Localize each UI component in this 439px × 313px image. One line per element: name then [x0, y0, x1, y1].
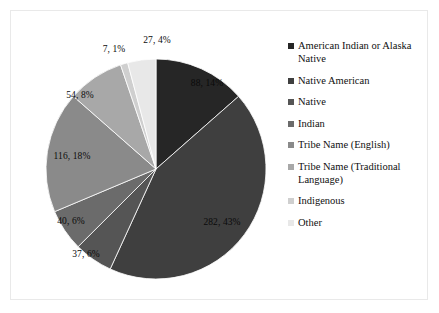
legend-item-label: Indigenous: [298, 194, 345, 207]
legend-item-label: Native American: [298, 74, 369, 87]
legend-item[interactable]: Native: [288, 95, 433, 108]
legend-item-label: Tribe Name (Traditional Language): [298, 160, 433, 186]
legend-item-label: Tribe Name (English): [298, 138, 390, 151]
legend-item-label: Other: [298, 216, 322, 229]
legend-swatch-icon: [288, 121, 294, 127]
pie-slice-label: 40, 6%: [57, 216, 85, 226]
legend-item-label: American Indian or Alaska Native: [298, 39, 433, 65]
legend-item[interactable]: Tribe Name (English): [288, 138, 433, 151]
legend-item[interactable]: Native American: [288, 74, 433, 87]
pie-slice-label: 27, 4%: [143, 35, 171, 45]
legend-swatch-icon: [288, 142, 294, 148]
legend-item[interactable]: Indigenous: [288, 194, 433, 207]
pie-slice-label: 37, 6%: [72, 249, 100, 259]
pie-slice-label: 282, 43%: [203, 217, 240, 227]
pie-slice-label: 116, 18%: [54, 151, 91, 161]
pie-svg: [11, 11, 276, 301]
pie-chart-plot-area: 88, 14%282, 43%37, 6%40, 6%116, 18%54, 8…: [11, 11, 276, 301]
legend-swatch-icon: [288, 164, 294, 170]
chart-frame: 88, 14%282, 43%37, 6%40, 6%116, 18%54, 8…: [10, 10, 428, 300]
pie-slice-label: 7, 1%: [103, 44, 126, 54]
legend-item[interactable]: Tribe Name (Traditional Language): [288, 160, 433, 186]
legend-item[interactable]: American Indian or Alaska Native: [288, 39, 433, 65]
legend-swatch-icon: [288, 99, 294, 105]
pie-chart-screenshot: 88, 14%282, 43%37, 6%40, 6%116, 18%54, 8…: [0, 0, 439, 313]
legend-swatch-icon: [288, 198, 294, 204]
chart-legend: American Indian or Alaska NativeNative A…: [288, 39, 433, 237]
legend-item[interactable]: Other: [288, 216, 433, 229]
pie-slice-label: 88, 14%: [191, 78, 223, 88]
legend-swatch-icon: [288, 220, 294, 226]
legend-swatch-icon: [288, 78, 294, 84]
legend-item-label: Indian: [298, 117, 325, 130]
legend-item[interactable]: Indian: [288, 117, 433, 130]
legend-item-label: Native: [298, 95, 326, 108]
legend-swatch-icon: [288, 43, 294, 49]
pie-slice-label: 54, 8%: [66, 90, 94, 100]
